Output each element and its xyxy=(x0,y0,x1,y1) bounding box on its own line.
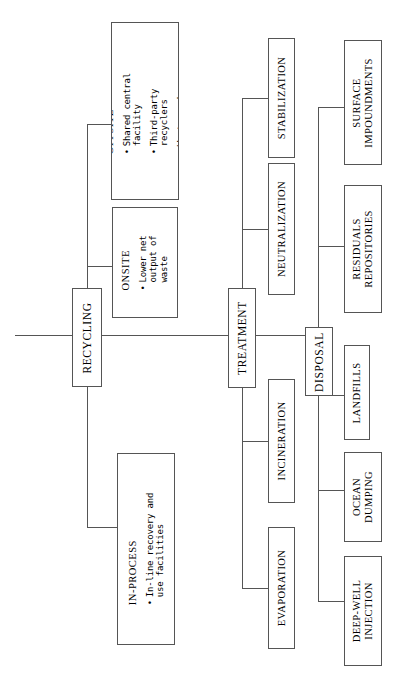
bullet-item: • Lower netoutput ofwaste xyxy=(138,235,169,290)
node-offsite-bullets: • Shared centralfacility • Third-partyre… xyxy=(122,68,179,154)
node-neutralization-label: NEUTRALIZATION xyxy=(276,181,287,277)
node-offsite[interactable]: OFFSITE • Shared centralfacility • Third… xyxy=(111,22,179,200)
node-disposal-label: DISPOSAL xyxy=(313,332,325,392)
node-stabilization-label: STABILIZATION xyxy=(276,57,287,140)
node-surface-impoundments-label: SURFACEIMPOUNDMENTS xyxy=(351,58,375,147)
connector-disposal-residuals-repositories xyxy=(318,246,344,247)
node-in-process[interactable]: IN-PROCESS • In-line recovery anduse fac… xyxy=(117,453,175,645)
disposal-branch-vertical-lower xyxy=(318,395,319,601)
spine-recycling-to-treatment xyxy=(101,335,229,336)
node-ocean-dumping-label: OCEANDUMPING xyxy=(351,471,375,523)
connector-recycling-offsite xyxy=(87,124,111,125)
bullet-item: • Waste exchanges xyxy=(176,68,179,154)
treatment-branch-vertical xyxy=(242,98,243,288)
node-ocean-dumping[interactable]: OCEANDUMPING xyxy=(344,452,382,542)
bullet-dot-icon: • xyxy=(122,146,132,154)
node-residuals-repositories-label: RESIDUALSREPOSITORIES xyxy=(351,210,375,288)
node-offsite-heading: OFFSITE xyxy=(111,68,115,154)
connector-disposal-deep-well-injection xyxy=(318,601,344,602)
node-deep-well-injection[interactable]: DEEP-WELLINJECTION xyxy=(344,556,382,666)
node-treatment-label: TREATMENT xyxy=(236,301,248,375)
node-residuals-repositories[interactable]: RESIDUALSREPOSITORIES xyxy=(344,185,382,313)
bullet-text: In-line recovery anduse facilities xyxy=(145,493,166,597)
connector-treatment-incineration xyxy=(242,441,268,442)
connector-treatment-evaporation xyxy=(242,588,268,589)
node-evaporation[interactable]: EVAPORATION xyxy=(268,527,295,649)
node-onsite-heading: ONSITE xyxy=(120,235,131,290)
node-incineration-label: INCINERATION xyxy=(276,402,287,481)
connector-disposal-ocean-dumping xyxy=(318,490,344,491)
node-in-process-heading: IN-PROCESS xyxy=(127,493,138,605)
connector-treatment-stabilization xyxy=(242,98,268,99)
recycling-branch-vertical xyxy=(87,124,88,288)
node-evaporation-label: EVAPORATION xyxy=(276,550,287,627)
connector-recycling-in-process xyxy=(87,527,117,528)
bullet-text: Shared centralfacility xyxy=(122,73,143,146)
connector-treatment-neutralization xyxy=(242,229,268,230)
node-recycling[interactable]: RECYCLING xyxy=(72,288,102,387)
node-onsite-bullets: • Lower netoutput ofwaste xyxy=(138,235,169,290)
bullet-text: Third-partyrecyclers xyxy=(149,89,170,146)
node-landfills-label: LANDFILLS xyxy=(351,362,362,423)
recycling-branch-vertical-lower xyxy=(87,387,88,527)
bullet-text: Lower netoutput ofwaste xyxy=(138,235,169,282)
disposal-branch-vertical xyxy=(318,107,319,327)
node-onsite[interactable]: ONSITE • Lower netoutput ofwaste xyxy=(112,207,178,318)
connector-recycling-onsite xyxy=(87,266,112,267)
bullet-item: • Shared centralfacility xyxy=(122,68,143,154)
bullet-dot-icon: • xyxy=(149,146,159,154)
node-treatment[interactable]: TREATMENT xyxy=(228,288,256,388)
node-incineration[interactable]: INCINERATION xyxy=(268,379,295,503)
spine-root-to-recycling xyxy=(15,335,73,336)
bullet-dot-icon: • xyxy=(138,282,148,290)
diagram-canvas: RECYCLING TREATMENT DISPOSAL OFFSITE • S… xyxy=(0,0,400,677)
bullet-dot-icon: • xyxy=(145,597,155,605)
node-surface-impoundments[interactable]: SURFACEIMPOUNDMENTS xyxy=(344,40,382,165)
spine-treatment-to-disposal xyxy=(255,335,305,336)
node-neutralization[interactable]: NEUTRALIZATION xyxy=(268,163,295,295)
treatment-branch-vertical-lower xyxy=(242,388,243,588)
node-landfills[interactable]: LANDFILLS xyxy=(344,345,370,440)
bullet-item: • Third-partyrecyclers xyxy=(149,68,170,154)
bullet-item: • In-line recovery anduse facilities xyxy=(145,493,166,605)
bullet-dot-icon: • xyxy=(176,146,179,154)
node-in-process-bullets: • In-line recovery anduse facilities xyxy=(145,493,166,605)
connector-disposal-surface-impoundments xyxy=(318,107,344,108)
node-deep-well-injection-label: DEEP-WELLINJECTION xyxy=(351,580,375,643)
node-stabilization[interactable]: STABILIZATION xyxy=(268,38,295,158)
bullet-text: Waste exchanges xyxy=(176,68,179,146)
node-recycling-label: RECYCLING xyxy=(81,302,93,373)
node-disposal[interactable]: DISPOSAL xyxy=(305,327,333,396)
